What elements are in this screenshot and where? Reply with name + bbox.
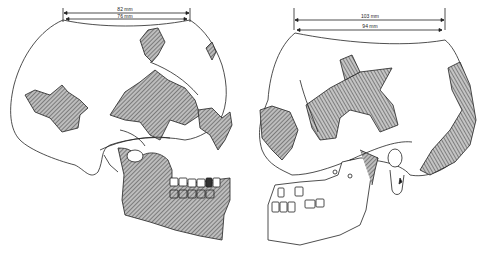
right-skull [260,8,476,245]
left-orbit-fragment [198,108,232,150]
left-inner-measurement: 76 mm [117,13,132,19]
left-frontal-fragment [140,28,165,62]
right-outer-measurement: 103 mm [361,13,379,19]
left-outer-measurement: 82 mm [117,6,132,12]
skull-figure: 82 mm 76 mm 103 mm 94 mm [0,0,492,258]
left-parietal-fragment [25,85,88,132]
right-occipital-fragment [420,62,476,175]
right-temporal-fragment [306,68,398,140]
left-brow-fragment [206,42,216,60]
left-skull [11,8,232,240]
right-orbit-fragment [260,106,298,160]
left-temporal-fragment [110,70,200,140]
right-inner-measurement: 94 mm [362,23,377,29]
